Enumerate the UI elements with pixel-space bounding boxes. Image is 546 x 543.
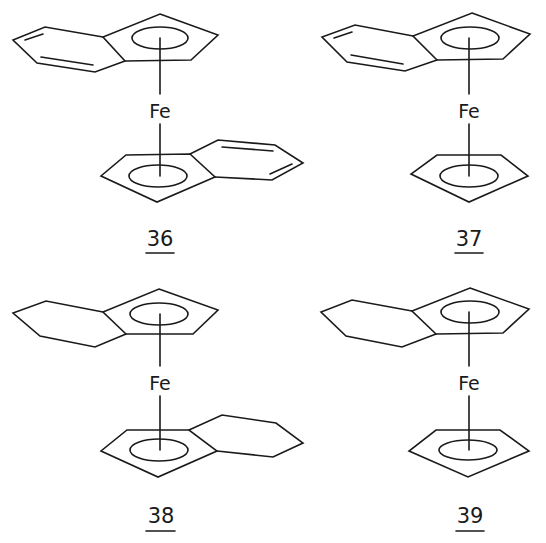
cyclohexene-ring (13, 301, 126, 347)
compound-number: 38 (148, 504, 175, 528)
benzo-ring (13, 27, 125, 72)
aromatic-circle (129, 165, 187, 187)
aromatic-circle (130, 303, 188, 325)
top-tetrahydroindenyl-ligand (321, 288, 529, 347)
fe-atom-label: Fe (149, 100, 171, 122)
compound-37: Fe 37 (322, 13, 530, 253)
fe-atom-label: Fe (458, 372, 480, 394)
double-bond (351, 55, 403, 64)
top-indenyl-ligand (322, 13, 530, 71)
double-bond (25, 34, 43, 40)
compound-number: 37 (456, 227, 483, 251)
aromatic-circle (439, 440, 497, 460)
top-indenyl-ligand (13, 14, 218, 72)
cp-ring (413, 13, 530, 60)
cyclohexene-ring (189, 415, 303, 457)
double-bond (222, 147, 273, 151)
benzo-ring (190, 140, 303, 180)
compound-number: 36 (147, 227, 174, 251)
aromatic-circle (441, 27, 499, 49)
fe-atom-label: Fe (458, 100, 480, 122)
benzo-ring (322, 25, 437, 71)
double-bond (270, 164, 292, 174)
double-bond (41, 57, 93, 65)
structures-canvas: Fe 36 Fe 37 (0, 0, 546, 543)
compound-36: Fe 36 (13, 14, 303, 253)
cp-ring (101, 430, 217, 477)
bottom-indenyl-ligand (101, 140, 303, 202)
double-bond (334, 32, 352, 38)
compound-number: 39 (457, 504, 484, 528)
bottom-tetrahydroindenyl-ligand (101, 415, 303, 477)
cp-ring (412, 288, 529, 334)
cyclohexene-ring (321, 300, 436, 347)
aromatic-circle (130, 439, 188, 461)
fe-atom-label: Fe (149, 372, 171, 394)
cp-ring (101, 154, 215, 202)
aromatic-circle (441, 301, 499, 323)
compound-39: Fe 39 (321, 288, 529, 531)
compound-38: Fe 38 (13, 289, 303, 531)
top-tetrahydroindenyl-ligand (13, 289, 218, 347)
